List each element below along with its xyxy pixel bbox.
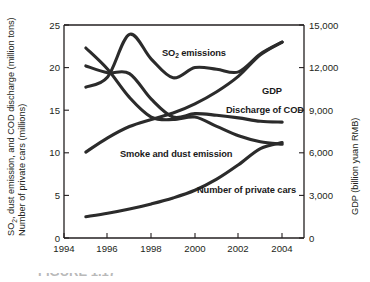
y-tick-label-15: 15 (49, 105, 60, 116)
y-tick-label-5: 5 (55, 190, 60, 201)
series-label-discharge-of-cod: Discharge of COD (226, 105, 304, 115)
series-label-so2: SO2 emissions (162, 48, 226, 59)
y-axis-left-ticks: 25 20 15 10 5 0 (49, 20, 69, 244)
x-tick-label-2000: 2000 (184, 243, 205, 254)
y-tick-label-10: 10 (49, 147, 60, 158)
series-label-smoke-and-dust-emission: Smoke and dust emission (120, 149, 233, 159)
y-tick-label-20: 20 (49, 62, 60, 73)
figure-container: SO2, dust emission, and COD discharge (m… (0, 0, 370, 282)
y2-tick-label-15000: 15,000 (309, 20, 338, 31)
y2-tick-label-3000: 3,000 (309, 190, 333, 201)
y-axis-title-left-line2: Number of private cars (millions) (17, 104, 27, 236)
x-tick-label-2002: 2002 (227, 243, 248, 254)
x-axis-ticks: 1994 1996 1998 2000 2002 2004 (53, 233, 293, 254)
y2-tick-label-0: 0 (309, 233, 314, 244)
y-tick-label-0: 0 (55, 233, 60, 244)
y-axis-title-left-part1: SO (6, 223, 16, 236)
y2-tick-label-12000: 12,000 (309, 62, 338, 73)
series-label-number-of-private-cars: Number of private cars (197, 185, 296, 195)
y-tick-label-25: 25 (49, 20, 60, 31)
series-label-so2-main: SO (162, 48, 175, 58)
y-axis-title-right: GDP (billion yuan RMB) (350, 118, 360, 215)
y-axis-right-ticks: 15,000 12,000 9,000 6,000 3,000 0 (299, 20, 338, 244)
figure-caption-strip: FIGURE 1.17 (0, 273, 370, 282)
line-chart: SO2, dust emission, and COD discharge (m… (0, 0, 370, 282)
y2-tick-label-6000: 6,000 (309, 147, 333, 158)
x-tick-label-1996: 1996 (96, 243, 117, 254)
x-tick-label-1994: 1994 (53, 243, 75, 254)
y-axis-title-left-part2: , dust emission, and COD discharge (mill… (6, 17, 16, 219)
y-axis-title-left: SO2, dust emission, and COD discharge (m… (6, 17, 27, 236)
y-axis-title-right-label: GDP (billion yuan RMB) (350, 118, 360, 215)
x-tick-label-2004: 2004 (271, 243, 293, 254)
figure-caption: FIGURE 1.17 (38, 273, 116, 279)
x-tick-label-1998: 1998 (140, 243, 161, 254)
series-label-gdp: GDP (262, 86, 282, 96)
svg-text:SO2, dust emission, and COD di: SO2, dust emission, and COD discharge (m… (6, 17, 18, 236)
y2-tick-label-9000: 9,000 (309, 105, 333, 116)
series-label-so2-rest: emissions (179, 48, 226, 58)
